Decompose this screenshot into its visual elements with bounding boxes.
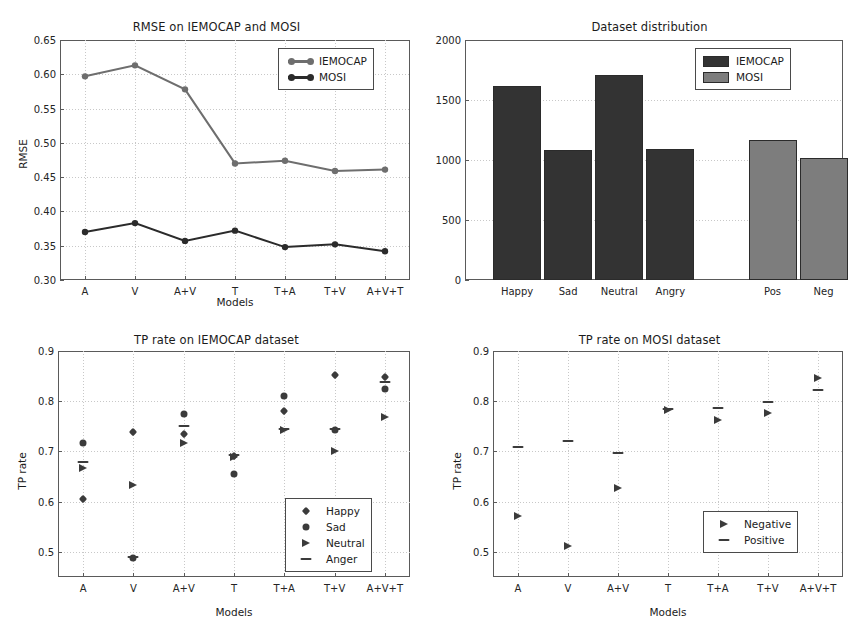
- grid-line-vertical: [234, 351, 235, 577]
- y-tick-label: 0.7: [12, 446, 54, 457]
- legend-distribution[interactable]: IEMOCAPMOSI: [695, 48, 791, 90]
- y-tick-label: 0.8: [447, 396, 489, 407]
- data-point-circle: [180, 411, 187, 418]
- x-tick-label: T+V: [324, 583, 345, 594]
- legend-label: IEMOCAP: [731, 55, 784, 67]
- legend-swatch: [703, 56, 729, 67]
- bar-angry: [646, 149, 694, 280]
- legend-dot: [288, 58, 295, 65]
- data-point-triangle: [714, 416, 722, 424]
- data-point-mosi: [182, 238, 188, 244]
- y-tick-mark: [58, 502, 62, 503]
- legend-marker: [295, 553, 317, 565]
- legend-label: Happy: [321, 505, 360, 517]
- grid-line-vertical: [818, 351, 819, 577]
- data-point-triangle: [614, 484, 622, 492]
- legend-tp-iemocap[interactable]: HappySadNeutralAnger: [285, 498, 372, 572]
- data-point-dash: [713, 407, 724, 409]
- legend-key-anger: [291, 553, 321, 565]
- y-tick-mark: [465, 160, 469, 161]
- data-point-iemocap: [332, 168, 338, 174]
- data-point-circle: [281, 393, 288, 400]
- legend-label: Anger: [321, 553, 357, 565]
- data-point-mosi: [132, 220, 138, 226]
- x-tick-label: Sad: [559, 286, 578, 297]
- y-tick-label: 0.8: [12, 396, 54, 407]
- legend-marker: [295, 537, 317, 549]
- y-tick-mark: [465, 100, 469, 101]
- data-point-dash: [301, 558, 312, 560]
- legend-key-mosi: [701, 72, 731, 83]
- data-point-dash: [763, 401, 774, 403]
- data-point-circle: [381, 386, 388, 393]
- bar-sad: [544, 150, 592, 280]
- legend-line-marker: [285, 56, 313, 66]
- y-tick-mark: [493, 502, 497, 503]
- grid-line-vertical: [184, 351, 185, 577]
- data-point-mosi: [382, 248, 388, 254]
- data-point-mosi: [82, 229, 88, 235]
- legend-marker: [295, 521, 317, 533]
- data-point-dash: [128, 556, 139, 558]
- x-tick-label: T+A: [274, 583, 295, 594]
- y-tick-mark: [493, 351, 497, 352]
- panel-distribution: Dataset distribution 0500100015002000Hap…: [433, 0, 866, 315]
- x-tick-label: Angry: [656, 286, 686, 297]
- y-tick-label: 0.7: [447, 446, 489, 457]
- bar-neutral: [595, 75, 643, 280]
- y-tick-label: 0.5: [447, 546, 489, 557]
- y-tick-label: 0.6: [447, 496, 489, 507]
- grid-line-vertical: [618, 351, 619, 577]
- data-point-triangle: [381, 413, 389, 421]
- x-tick-label: Neutral: [601, 286, 638, 297]
- line-mosi: [85, 223, 385, 251]
- data-point-iemocap: [232, 160, 238, 166]
- legend-dot: [307, 74, 314, 81]
- data-point-dash: [379, 381, 390, 383]
- legend-row: IEMOCAP: [701, 53, 784, 69]
- legend-row: IEMOCAP: [284, 53, 367, 69]
- x-tick-mark: [385, 573, 386, 577]
- data-point-triangle: [514, 512, 522, 520]
- legend-row: MOSI: [284, 69, 367, 85]
- legend-marker: [713, 534, 735, 546]
- x-tick-mark: [234, 573, 235, 577]
- legend-key-positive: [709, 534, 739, 546]
- x-tick-mark: [618, 573, 619, 577]
- data-point-dash: [78, 461, 89, 463]
- data-point-iemocap: [82, 73, 88, 79]
- x-tick-label: V: [565, 583, 572, 594]
- legend-label: Neutral: [321, 537, 365, 549]
- y-tick-label: 0.9: [447, 346, 489, 357]
- y-tick-mark: [493, 401, 497, 402]
- legend-marker: [713, 518, 735, 530]
- data-point-iemocap: [282, 157, 288, 163]
- x-tick-mark: [668, 573, 669, 577]
- data-point-dash: [663, 408, 674, 410]
- chart-title-tp-mosi: TP rate on MOSI dataset: [433, 333, 866, 347]
- legend-key-neutral: [291, 537, 321, 549]
- data-point-iemocap: [382, 166, 388, 172]
- y-tick-label: 0: [419, 275, 461, 286]
- chart-title-distribution: Dataset distribution: [433, 20, 866, 34]
- legend-label: IEMOCAP: [314, 55, 367, 67]
- legend-rmse[interactable]: IEMOCAPMOSI: [278, 48, 374, 90]
- bar-neg: [800, 158, 848, 280]
- x-axis-label-tp-iemocap: Models: [58, 606, 410, 618]
- panel-rmse: RMSE on IEMOCAP and MOSI RMSE Models 0.3…: [0, 0, 433, 315]
- chart-title-tp-iemocap: TP rate on IEMOCAP dataset: [0, 333, 433, 347]
- y-tick-label: 0.9: [12, 346, 54, 357]
- data-point-mosi: [332, 241, 338, 247]
- y-tick-label: 0.6: [12, 496, 54, 507]
- data-point-dash: [329, 428, 340, 430]
- legend-key-mosi: [284, 72, 314, 82]
- x-tick-label: T+A: [707, 583, 728, 594]
- legend-key-iemocap: [284, 56, 314, 66]
- legend-dot: [307, 58, 314, 65]
- x-tick-mark: [83, 573, 84, 577]
- legend-tp-mosi[interactable]: NegativePositive: [703, 511, 798, 553]
- x-tick-label: Neg: [814, 286, 834, 297]
- data-point-dash: [178, 425, 189, 427]
- y-tick-mark: [465, 40, 469, 41]
- x-tick-mark: [284, 573, 285, 577]
